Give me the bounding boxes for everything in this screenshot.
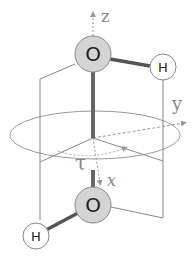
svg-text:O: O xyxy=(85,42,101,66)
top-hydrogen-atom: H xyxy=(150,54,176,80)
h2o2-torsion-diagram: z y x τ O H O H xyxy=(0,0,193,256)
z-axis-label: z xyxy=(101,7,109,26)
top-oh-bond xyxy=(110,59,150,66)
svg-text:H: H xyxy=(31,229,41,244)
bottom-hydrogen-atom: H xyxy=(23,223,49,249)
svg-text:O: O xyxy=(85,193,101,217)
top-oxygen-atom: O xyxy=(75,36,111,72)
y-axis-label: y xyxy=(171,93,183,114)
diagram-canvas: z y x τ O H O H xyxy=(0,0,193,256)
bottom-oh-bond xyxy=(46,213,78,230)
torsion-angle-label: τ xyxy=(75,151,86,175)
svg-text:H: H xyxy=(158,60,168,75)
x-axis-label: x xyxy=(107,171,116,190)
y-axis xyxy=(93,123,184,138)
bottom-oxygen-atom: O xyxy=(75,187,111,223)
